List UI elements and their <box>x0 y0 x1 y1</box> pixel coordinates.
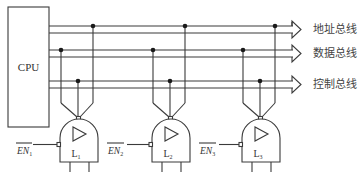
address-bus-label: 地址总线 <box>313 22 357 36</box>
control-bus <box>49 76 301 93</box>
gate-1-enable-bubble <box>57 143 61 147</box>
address-bus-arrow-icon <box>292 21 301 38</box>
gate-2-connections <box>151 24 188 117</box>
gate-1-enable-label: EN1 <box>16 146 32 157</box>
bus-diagram: CPU 地址总线 数据总线 控制总线 <box>0 0 363 185</box>
gate-1-connections <box>59 24 96 117</box>
data-bus-label: 数据总线 <box>313 46 357 60</box>
gate-2-enable-label: EN2 <box>107 146 123 157</box>
control-bus-arrow-icon <box>292 76 301 93</box>
address-bus <box>49 21 301 38</box>
gate-3: L3 EN3 <box>199 117 280 173</box>
gate-3-connections <box>241 24 278 117</box>
gate-2: L2 EN2 <box>107 117 190 173</box>
cpu-label: CPU <box>18 61 39 73</box>
gate-2-enable-bubble <box>149 143 153 147</box>
gate-3-enable-label: EN3 <box>199 146 215 157</box>
gate-1: L1 EN1 <box>16 117 98 173</box>
control-bus-label: 控制总线 <box>313 77 357 91</box>
gate-3-enable-bubble <box>239 143 243 147</box>
data-bus-arrow-icon <box>292 45 301 62</box>
data-bus <box>49 45 301 62</box>
